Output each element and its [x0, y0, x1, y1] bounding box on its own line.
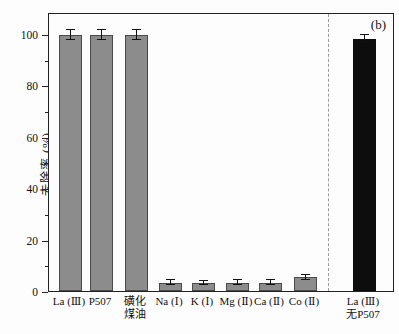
bar-La (Ⅲ)无P507: [353, 39, 376, 291]
panel-label: (b): [371, 17, 386, 33]
error-bar-cap: [66, 29, 75, 30]
bar-chart-figure: 去除率 (%) 020406080100 (b) La (Ⅲ)P507磺化煤油N…: [0, 0, 399, 334]
y-tick-label: 40: [4, 182, 38, 196]
y-tick-label: 20: [4, 234, 38, 248]
error-bar-cap: [301, 274, 310, 275]
error-bar-cap: [233, 284, 242, 285]
plot-area: (b): [48, 13, 394, 292]
error-bar-cap: [199, 284, 208, 285]
y-major-tick: [42, 292, 48, 293]
error-bar-cap: [132, 29, 141, 30]
error-bar-cap: [360, 42, 369, 43]
error-bar-cap: [199, 280, 208, 281]
error-bar-cap: [266, 279, 275, 280]
y-tick-label: 80: [4, 79, 38, 93]
error-bar-cap: [97, 29, 106, 30]
bar-La (Ⅲ): [59, 35, 82, 291]
error-bar-cap: [166, 284, 175, 285]
x-tick-label: Co (Ⅱ): [272, 295, 336, 308]
error-bar-cap: [233, 279, 242, 280]
separator-line: [328, 14, 329, 291]
bar-磺化煤油: [125, 35, 148, 291]
error-bar-cap: [66, 39, 75, 40]
error-bar-cap: [132, 39, 141, 40]
x-tick-label: La (Ⅲ)无P507: [331, 295, 395, 321]
bar-P507: [90, 35, 113, 291]
error-bar-cap: [360, 34, 369, 35]
y-tick-label: 100: [4, 28, 38, 42]
error-bar-cap: [97, 39, 106, 40]
y-tick-label: 0: [4, 285, 38, 299]
error-bar-cap: [266, 284, 275, 285]
error-bar-cap: [301, 279, 310, 280]
y-tick-label: 60: [4, 131, 38, 145]
error-bar-cap: [166, 279, 175, 280]
